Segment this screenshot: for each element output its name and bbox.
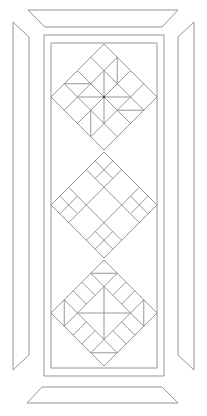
nine-patch-block xyxy=(51,152,157,258)
left-border xyxy=(13,22,29,370)
quilt-diagram: Quilt table runner line pattern xyxy=(0,0,207,416)
right-border xyxy=(178,22,194,370)
top-border xyxy=(28,10,178,27)
rail-hourglass-block xyxy=(51,260,157,366)
frame xyxy=(13,10,194,403)
quilt-svg xyxy=(0,0,207,416)
bottom-border xyxy=(27,387,178,403)
pinwheel-block xyxy=(51,44,157,150)
